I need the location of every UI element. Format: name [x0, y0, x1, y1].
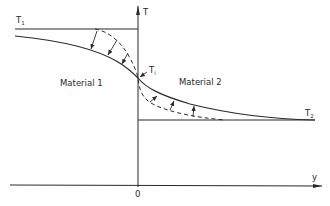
dashed-profile-curve [95, 29, 225, 120]
arrow-5 [170, 101, 174, 110]
ti-pointer [140, 72, 147, 77]
arrow-4 [150, 96, 157, 102]
arrow-6 [193, 106, 194, 117]
y-axis-label: y [312, 172, 317, 182]
t-axis-label: T [142, 7, 149, 17]
diagram-canvas: T1 T Ti Material 1 Material 2 T2 0 y [0, 0, 330, 206]
arrow-3 [122, 53, 128, 64]
material-2-label: Material 2 [179, 77, 222, 87]
arrow-1 [91, 31, 97, 49]
t2-label: T2 [304, 108, 314, 119]
ti-label: Ti [148, 65, 156, 76]
material-1-label: Material 1 [60, 78, 103, 88]
origin-label: 0 [135, 189, 140, 199]
t1-label: T1 [15, 15, 25, 26]
y-axis [10, 185, 322, 186]
arrow-2 [108, 40, 117, 55]
